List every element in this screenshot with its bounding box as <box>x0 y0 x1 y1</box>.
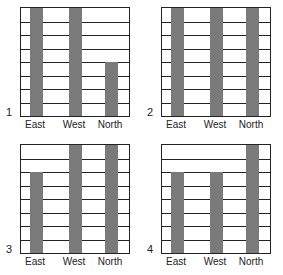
bar-west <box>210 8 223 116</box>
chart-panel-2: EastWestNorth2 <box>141 0 282 137</box>
panel-number: 2 <box>147 106 153 118</box>
category-label: North <box>233 256 269 267</box>
category-label: West <box>197 119 233 130</box>
bar-east <box>30 172 43 253</box>
category-label: West <box>56 119 92 130</box>
category-label: North <box>92 119 128 130</box>
chart-panel-3: EastWestNorth3 <box>0 137 141 274</box>
category-label: East <box>158 119 194 130</box>
chart-panel-1: EastWestNorth1 <box>0 0 141 137</box>
panel-number: 4 <box>147 243 153 255</box>
chart-frame <box>161 144 271 254</box>
bar-east <box>30 8 43 116</box>
category-label: North <box>233 119 269 130</box>
bar-north <box>105 62 118 116</box>
chart-frame <box>161 7 271 117</box>
panel-number: 1 <box>6 106 12 118</box>
bar-east <box>171 8 184 116</box>
bar-north <box>105 145 118 253</box>
category-label: East <box>17 256 53 267</box>
chart-frame <box>20 144 130 254</box>
category-label: East <box>17 119 53 130</box>
category-label: West <box>56 256 92 267</box>
bar-east <box>171 172 184 253</box>
bar-west <box>69 145 82 253</box>
chart-panel-4: EastWestNorth4 <box>141 137 282 274</box>
chart-frame <box>20 7 130 117</box>
bar-north <box>246 8 259 116</box>
category-label: North <box>92 256 128 267</box>
bar-west <box>69 8 82 116</box>
bar-west <box>210 172 223 253</box>
category-label: West <box>197 256 233 267</box>
bar-north <box>246 145 259 253</box>
panel-number: 3 <box>6 243 12 255</box>
category-label: East <box>158 256 194 267</box>
